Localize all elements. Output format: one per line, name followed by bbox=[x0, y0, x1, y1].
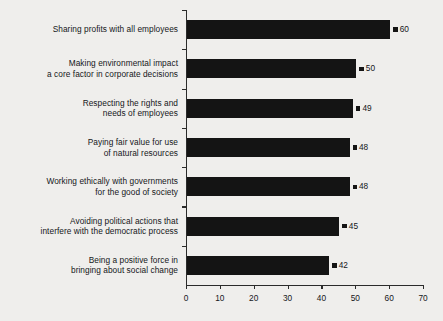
y-axis-tick bbox=[182, 49, 186, 50]
x-axis-tick-label: 0 bbox=[184, 293, 189, 303]
category-label: Respecting the rights and needs of emplo… bbox=[0, 98, 178, 119]
y-axis-tick bbox=[182, 89, 186, 90]
x-axis-tick-label: 50 bbox=[351, 293, 360, 303]
x-axis-tick-label: 60 bbox=[385, 293, 394, 303]
y-axis-tick bbox=[182, 167, 186, 168]
bar-value-marker-icon bbox=[356, 106, 361, 111]
x-axis-tick-label: 30 bbox=[283, 293, 292, 303]
bar-chart: Sharing profits with all employeesMaking… bbox=[0, 0, 443, 321]
bar-value-label: 60 bbox=[400, 24, 409, 34]
x-axis-tick-label: 70 bbox=[418, 293, 427, 303]
bar-value-label: 48 bbox=[359, 181, 368, 191]
bar bbox=[187, 217, 339, 236]
bar-value-marker-icon bbox=[353, 185, 358, 190]
x-axis-tick bbox=[288, 285, 289, 289]
x-axis-tick bbox=[355, 285, 356, 289]
bar bbox=[187, 177, 350, 196]
bar-value-label: 42 bbox=[339, 260, 348, 270]
x-axis-tick bbox=[423, 285, 424, 289]
bar-value-marker-icon bbox=[332, 263, 337, 268]
x-axis-tick-label: 40 bbox=[317, 293, 326, 303]
category-label: Sharing profits with all employees bbox=[0, 24, 178, 35]
x-axis-line bbox=[186, 285, 423, 286]
x-axis-tick bbox=[254, 285, 255, 289]
bar-value-label: 49 bbox=[362, 103, 371, 113]
x-axis-tick-label: 10 bbox=[215, 293, 224, 303]
x-axis-tick bbox=[321, 285, 322, 289]
bar-value-marker-icon bbox=[353, 145, 358, 150]
bar-value-marker-icon bbox=[393, 27, 398, 32]
x-axis-tick bbox=[220, 285, 221, 289]
category-label: Working ethically with governments for t… bbox=[0, 176, 178, 197]
y-axis-tick bbox=[182, 10, 186, 11]
y-axis-tick bbox=[182, 128, 186, 129]
category-label: Being a positive force in bringing about… bbox=[0, 255, 178, 276]
bar bbox=[187, 138, 350, 157]
bar-value-label: 45 bbox=[349, 221, 358, 231]
bar bbox=[187, 59, 356, 78]
bar bbox=[187, 20, 390, 39]
bar bbox=[187, 99, 353, 118]
category-label: Making environmental impact a core facto… bbox=[0, 58, 178, 79]
plot-area: 60504948484542 010203040506070 bbox=[186, 10, 423, 285]
bar-value-label: 48 bbox=[359, 142, 368, 152]
bar bbox=[187, 256, 329, 275]
x-axis-tick-label: 20 bbox=[249, 293, 258, 303]
category-label: Paying fair value for use of natural res… bbox=[0, 137, 178, 158]
x-axis-tick bbox=[389, 285, 390, 289]
y-axis-tick bbox=[182, 206, 186, 207]
y-axis-tick bbox=[182, 246, 186, 247]
bar-value-marker-icon bbox=[342, 224, 347, 229]
bar-value-label: 50 bbox=[366, 63, 375, 73]
category-label: Avoiding political actions that interfer… bbox=[0, 216, 178, 237]
bar-value-marker-icon bbox=[359, 67, 364, 72]
x-axis-tick bbox=[186, 285, 187, 289]
category-labels: Sharing profits with all employeesMaking… bbox=[0, 10, 178, 285]
